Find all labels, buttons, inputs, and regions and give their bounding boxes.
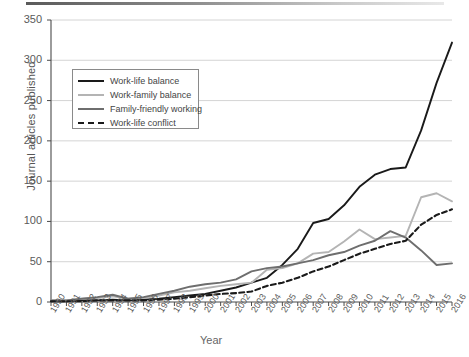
legend-label: Work-life conflict: [110, 118, 176, 128]
legend-item: Work-life conflict: [78, 116, 198, 129]
legend-swatch-icon: [78, 108, 104, 110]
series-line: [51, 193, 452, 300]
line-chart-figure: Journal articles published Year 05010015…: [0, 0, 469, 357]
legend-swatch-icon: [78, 80, 104, 82]
series-line: [51, 209, 452, 301]
legend-label: Work-family balance: [110, 90, 191, 100]
x-axis-label: Year: [200, 334, 222, 346]
legend-item: Work-family balance: [78, 88, 198, 101]
legend-item: Work-life balance: [78, 74, 198, 87]
chart-legend: Work-life balanceWork-family balanceFami…: [72, 69, 199, 129]
y-tick-label: 0: [12, 295, 42, 307]
series-line: [51, 231, 452, 300]
legend-label: Family-friendly working: [110, 104, 202, 114]
y-tick-label: 50: [12, 255, 42, 267]
legend-item: Family-friendly working: [78, 102, 198, 115]
legend-label: Work-life balance: [110, 76, 179, 86]
y-tick-label: 100: [12, 214, 42, 226]
y-tick-label: 300: [12, 53, 42, 65]
y-tick-label: 200: [12, 134, 42, 146]
y-tick-label: 350: [12, 13, 42, 25]
y-tick-label: 150: [12, 174, 42, 186]
legend-swatch-icon: [78, 94, 104, 96]
legend-swatch-icon: [78, 122, 104, 124]
y-tick-label: 250: [12, 94, 42, 106]
